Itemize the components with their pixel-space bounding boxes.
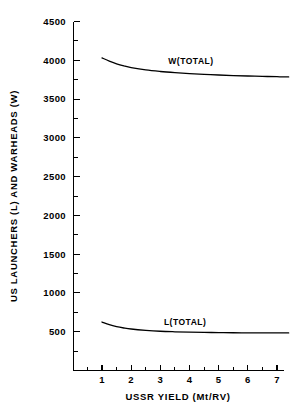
x-tick-label: 2 bbox=[128, 374, 134, 385]
chart-figure: 50010001500200025003000350040004500 1234… bbox=[0, 0, 294, 408]
y-axis-title: US LAUNCHERS (L) AND WARHEADS (W) bbox=[8, 90, 19, 302]
y-tick-label: 2500 bbox=[43, 171, 66, 182]
x-axis-major-ticks bbox=[102, 365, 277, 371]
y-tick-label: 1000 bbox=[43, 287, 66, 298]
series-label: L(TOTAL) bbox=[164, 317, 206, 327]
series-label: W(TOTAL) bbox=[168, 56, 213, 66]
y-axis-minor-ticks bbox=[74, 41, 78, 351]
x-tick-label: 7 bbox=[274, 374, 280, 385]
y-axis-tick-labels: 50010001500200025003000350040004500 bbox=[43, 16, 66, 337]
y-tick-label: 500 bbox=[49, 326, 66, 337]
y-axis-major-ticks bbox=[74, 22, 80, 332]
x-axis-tick-labels: 1234567 bbox=[99, 374, 280, 385]
x-tick-label: 1 bbox=[99, 374, 105, 385]
y-tick-label: 3500 bbox=[43, 93, 66, 104]
y-tick-label: 3000 bbox=[43, 132, 66, 143]
y-tick-label: 4000 bbox=[43, 55, 66, 66]
x-tick-label: 6 bbox=[245, 374, 251, 385]
x-tick-label: 3 bbox=[157, 374, 163, 385]
y-tick-label: 2000 bbox=[43, 210, 66, 221]
x-tick-label: 5 bbox=[216, 374, 222, 385]
x-axis-minor-ticks bbox=[87, 367, 262, 371]
x-tick-label: 4 bbox=[187, 374, 193, 385]
x-axis-title: USSR YIELD (Mt/RV) bbox=[125, 391, 230, 402]
line-chart-plot: 50010001500200025003000350040004500 1234… bbox=[0, 0, 294, 408]
y-tick-label: 4500 bbox=[43, 16, 66, 27]
data-series-curves bbox=[102, 58, 289, 333]
y-tick-label: 1500 bbox=[43, 249, 66, 260]
series-inline-labels: W(TOTAL)L(TOTAL) bbox=[164, 56, 214, 327]
